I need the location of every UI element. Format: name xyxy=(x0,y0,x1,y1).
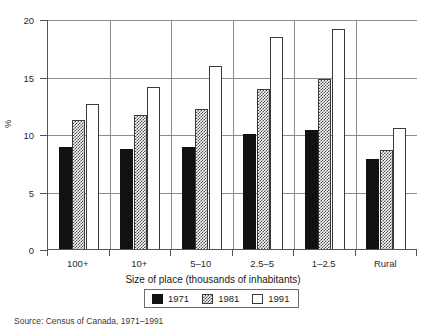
bar-1971-Rural xyxy=(366,159,379,250)
legend-label-1981: 1981 xyxy=(218,293,239,304)
gridline-vertical xyxy=(356,20,357,250)
bar-1971-100+ xyxy=(59,147,72,251)
y-tick-mark xyxy=(40,193,47,194)
x-tick-mark xyxy=(109,249,110,256)
legend-swatch-1971 xyxy=(152,294,163,304)
x-tick-label: 10+ xyxy=(131,258,147,269)
bar-1981-5–10 xyxy=(195,109,208,250)
y-tick-label: 5 xyxy=(8,187,34,198)
gridline-vertical xyxy=(171,20,172,250)
bar-1991-2.5–5 xyxy=(270,37,283,250)
legend-label-1991: 1991 xyxy=(268,293,289,304)
legend-item-1971: 1971 xyxy=(152,293,189,304)
x-tick-mark xyxy=(170,249,171,256)
bar-1971-10+ xyxy=(120,149,133,250)
bar-1981-2.5–5 xyxy=(257,89,270,250)
plot-area xyxy=(47,20,416,250)
bar-1981-100+ xyxy=(72,120,85,250)
bar-1971-5–10 xyxy=(182,147,195,251)
x-tick-mark xyxy=(416,249,417,256)
x-axis-title: Size of place (thousands of inhabitants) xyxy=(0,274,426,285)
bar-1981-Rural xyxy=(380,150,393,250)
x-tick-mark xyxy=(293,249,294,256)
x-tick-mark xyxy=(355,249,356,256)
gridline-vertical xyxy=(294,20,295,250)
bar-1991-Rural xyxy=(393,128,406,250)
x-tick-label: 100+ xyxy=(67,258,88,269)
y-tick-label: 10 xyxy=(8,130,34,141)
gridline-vertical xyxy=(110,20,111,250)
legend-swatch-1981 xyxy=(202,294,213,304)
y-tick-label: 15 xyxy=(8,72,34,83)
bar-1971-1–2.5 xyxy=(305,130,318,250)
legend-item-1991: 1991 xyxy=(252,293,289,304)
bar-1981-1–2.5 xyxy=(318,79,331,250)
bar-1991-5–10 xyxy=(209,66,222,250)
y-tick-mark xyxy=(40,20,47,21)
x-tick-label: 5–10 xyxy=(190,258,211,269)
x-tick-mark xyxy=(47,249,48,256)
bar-chart: % 05101520 100+10+5–102.5–51–2.5Rural Si… xyxy=(0,0,426,327)
x-tick-label: 1–2.5 xyxy=(312,258,336,269)
source-note: Source: Census of Canada, 1971–1991 xyxy=(14,316,163,326)
y-tick-label: 0 xyxy=(8,245,34,256)
bar-1971-2.5–5 xyxy=(243,134,256,250)
legend: 1971 1981 1991 xyxy=(144,289,299,308)
x-tick-label: Rural xyxy=(374,258,397,269)
y-axis-title: % xyxy=(2,120,13,128)
bar-1991-100+ xyxy=(86,104,99,250)
bar-1991-1–2.5 xyxy=(332,29,345,250)
x-tick-mark xyxy=(232,249,233,256)
legend-label-1971: 1971 xyxy=(168,293,189,304)
y-tick-label: 20 xyxy=(8,15,34,26)
y-tick-mark xyxy=(40,250,47,251)
bar-1981-10+ xyxy=(134,115,147,250)
y-tick-mark xyxy=(40,135,47,136)
legend-item-1981: 1981 xyxy=(202,293,239,304)
gridline-vertical xyxy=(233,20,234,250)
bar-1991-10+ xyxy=(147,87,160,250)
x-tick-label: 2.5–5 xyxy=(250,258,274,269)
legend-swatch-1991 xyxy=(252,294,263,304)
y-tick-mark xyxy=(40,78,47,79)
